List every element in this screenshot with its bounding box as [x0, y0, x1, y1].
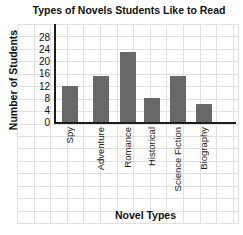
y-tick-28: 28	[20, 32, 50, 44]
x-label-romance: Romance	[122, 127, 133, 168]
y-tick-0: 0	[20, 117, 50, 129]
bar-biography	[196, 104, 212, 122]
x-axis-line	[54, 122, 236, 124]
chart-title: Types of Novels Students Like to Read	[17, 4, 241, 16]
x-label-adventure: Adventure	[95, 127, 106, 170]
x-axis-title: Novel Types	[55, 209, 236, 221]
y-tick-20: 20	[20, 56, 50, 68]
bar-chart: Types of Novels Students Like to Read 28…	[0, 0, 243, 235]
y-tick-4: 4	[20, 105, 50, 117]
bar-spy	[62, 86, 78, 122]
bar-science-fiction	[170, 76, 186, 122]
y-tick-12: 12	[20, 81, 50, 93]
x-label-science-fiction: Science Fiction	[172, 127, 183, 191]
bar-adventure	[93, 76, 109, 122]
x-label-spy: Spy	[64, 127, 75, 143]
bar-historical	[144, 98, 160, 122]
y-axis-title: Number of Students	[7, 30, 19, 130]
y-tick-8: 8	[20, 93, 50, 105]
x-label-historical: Historical	[146, 127, 157, 166]
x-label-biography: Biography	[198, 127, 209, 170]
bar-romance	[120, 52, 136, 122]
y-tick-16: 16	[20, 68, 50, 80]
y-axis-line	[54, 24, 56, 124]
y-tick-24: 24	[20, 44, 50, 56]
